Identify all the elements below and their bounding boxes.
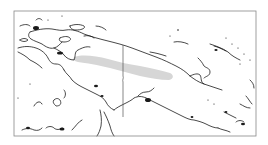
range-map: Range map: New Guinea — [0, 0, 268, 145]
map-canvas — [0, 0, 268, 145]
